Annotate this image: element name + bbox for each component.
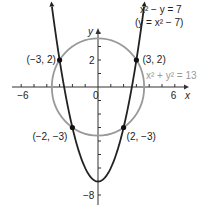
intersection-point: [70, 125, 75, 130]
x-tick-label: 6: [171, 90, 177, 101]
y-tick-label: −8: [83, 190, 95, 201]
y-tick-label: 2: [89, 55, 95, 66]
intersection-point: [57, 57, 62, 62]
y-axis-label: y: [87, 26, 94, 37]
point-label: (2, −3): [127, 131, 156, 142]
x-axis-label: x: [184, 90, 191, 101]
point-label: (−3, 2): [27, 54, 56, 65]
parabola-equation-line2: (y = x² − 7): [135, 17, 183, 28]
x-axis-arrow: [184, 85, 189, 90]
point-label: (−2, −3): [32, 131, 67, 142]
labels: x y x² − y = 7 (y = x² − 7) x² + y² = 13…: [17, 4, 197, 201]
x-tick-label: −6: [17, 90, 29, 101]
point-label: (3, 2): [142, 54, 165, 65]
x-tick-label: 0: [93, 90, 99, 101]
parabola-arrow: [49, 2, 54, 7]
circle-equation: x² + y² = 13: [146, 70, 197, 81]
intersection-point: [121, 125, 126, 130]
intersection-point: [134, 57, 139, 62]
parabola-equation-line1: x² − y = 7: [140, 4, 182, 15]
chart: x y x² − y = 7 (y = x² − 7) x² + y² = 13…: [0, 0, 202, 212]
